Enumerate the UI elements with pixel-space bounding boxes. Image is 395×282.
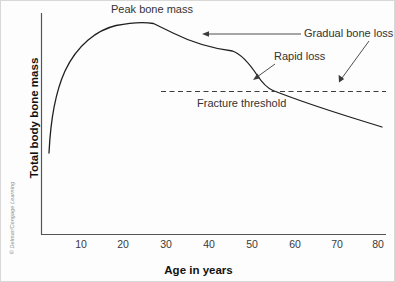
x-tick-label-10: 10: [68, 239, 94, 250]
annotation-rapid-loss: Rapid loss: [274, 51, 325, 62]
x-tick-label-70: 70: [324, 239, 350, 250]
x-axis-title: Age in years: [164, 264, 232, 276]
x-tick-label-30: 30: [153, 239, 179, 250]
x-tick-label-50: 50: [239, 239, 265, 250]
annotation-gradual-bone-loss: Gradual bone loss: [304, 28, 393, 39]
x-tick-label-20: 20: [110, 239, 136, 250]
gradual-loss-arrow2-line: [342, 41, 369, 78]
x-tick-label-60: 60: [282, 239, 308, 250]
publisher-credit: © Delmar/Cengage Learning: [9, 182, 15, 255]
gradual-loss-arrow-head: [202, 31, 209, 36]
annotation-fracture-threshold: Fracture threshold: [197, 98, 286, 109]
y-axis-title: Total body bone mass: [28, 58, 40, 179]
bone-mass-curve: [49, 23, 382, 153]
y-axis-title-wrapper: Total body bone mass: [24, 38, 42, 198]
x-axis-title-wrapper: Age in years: [1, 260, 395, 278]
credit-wrapper: © Delmar/Cengage Learning: [0, 168, 18, 268]
x-tick-label-80: 80: [365, 239, 391, 250]
bone-mass-chart-figure: Peak bone mass Gradual bone loss Rapid l…: [0, 0, 395, 282]
rapid-loss-arrow-line: [257, 64, 275, 77]
x-tick-label-40: 40: [196, 239, 222, 250]
annotation-peak-bone-mass: Peak bone mass: [111, 4, 193, 15]
